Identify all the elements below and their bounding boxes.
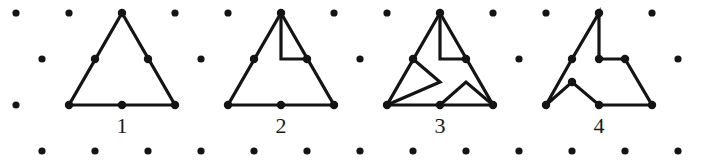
figure-4-pinwheel-label: 4 — [579, 115, 619, 137]
figure-1-plain-triangle-vertex-0 — [118, 9, 126, 17]
lattice-dot-r3-c4 — [250, 147, 257, 154]
figure-3-triangle-three-notches-vertex-3 — [462, 55, 470, 63]
lattice-dot-r1-c3 — [197, 55, 204, 62]
figure-1-plain-triangle-vertex-3 — [144, 55, 152, 63]
lattice-dot-r0-c12 — [648, 9, 655, 16]
lattice-dot-r3-c6 — [356, 147, 363, 154]
lattice-dot-r1-c0 — [38, 55, 45, 62]
lattice-dot-r3-c7 — [409, 147, 416, 154]
figure-1-plain-triangle-label: 1 — [102, 115, 142, 137]
lattice-dot-r3-c11 — [621, 147, 628, 154]
lattice-dot-r3-c9 — [515, 147, 522, 154]
lattice-dot-r3-c1 — [91, 147, 98, 154]
figure-2-triangle-one-notch-vertex-1 — [330, 101, 338, 109]
lattice-dot-r3-c2 — [144, 147, 151, 154]
figure-4-pinwheel-vertex-1 — [595, 55, 603, 63]
figure-2-triangle-one-notch-vertex-2 — [224, 101, 232, 109]
figure-3-triangle-three-notches-vertex-0 — [436, 9, 444, 17]
figure-4-pinwheel-vertex-4 — [595, 101, 603, 109]
lattice-dot-r0-c4 — [224, 9, 231, 16]
figure-2-triangle-one-notch-vertex-4 — [250, 55, 258, 63]
figure-4-pinwheel-vertex-7 — [568, 55, 576, 63]
lattice-dot-r3-c10 — [568, 147, 575, 154]
figure-1-plain-triangle-vertex-4 — [91, 55, 99, 63]
lattice-dot-r1-c9 — [515, 55, 522, 62]
figure-3-triangle-three-notches-vertex-5 — [436, 101, 444, 109]
figure-4-pinwheel-vertex-2 — [621, 55, 629, 63]
lattice-dot-r3-c5 — [303, 147, 310, 154]
lattice-dot-r0-c6 — [330, 9, 337, 16]
figure-4-pinwheel-vertex-0 — [595, 9, 603, 17]
figure-2-triangle-one-notch-vertex-5 — [277, 101, 285, 109]
figure-4-pinwheel-vertex-3 — [648, 101, 656, 109]
figure-4-pinwheel-vertex-5 — [568, 78, 576, 86]
figure-2-triangle-one-notch-label: 2 — [261, 115, 301, 137]
lattice-dot-r3-c12 — [674, 147, 681, 154]
figure-1-plain-triangle-vertex-1 — [171, 101, 179, 109]
figure-3-triangle-three-notches-notch-left — [387, 59, 440, 105]
figure-page: 1234 — [0, 0, 708, 165]
lattice-dot-r0-c3 — [171, 9, 178, 16]
figure-1-plain-triangle-vertex-5 — [118, 101, 126, 109]
figure-4-pinwheel-vertex-6 — [542, 101, 550, 109]
figure-3-triangle-three-notches-vertex-1 — [489, 101, 497, 109]
figure-2-triangle-one-notch-vertex-0 — [277, 9, 285, 17]
lattice-figure-canvas — [0, 0, 708, 165]
lattice-dot-r1-c12 — [674, 55, 681, 62]
figure-2-triangle-one-notch-vertex-3 — [303, 55, 311, 63]
lattice-dot-r3-c0 — [38, 147, 45, 154]
figure-3-triangle-three-notches-label: 3 — [420, 115, 460, 137]
figure-1-plain-triangle-outline — [69, 13, 175, 105]
lattice-dot-r3-c3 — [197, 147, 204, 154]
lattice-dot-r0-c0 — [12, 9, 19, 16]
figure-3-triangle-three-notches-vertex-4 — [409, 55, 417, 63]
figure-3-triangle-three-notches-vertex-2 — [383, 101, 391, 109]
figure-1-plain-triangle-vertex-2 — [65, 101, 73, 109]
lattice-dot-r2-c0 — [12, 101, 19, 108]
lattice-dot-r0-c7 — [383, 9, 390, 16]
lattice-dot-r3-c8 — [462, 147, 469, 154]
lattice-dot-r0-c1 — [65, 9, 72, 16]
lattice-dot-r1-c6 — [356, 55, 363, 62]
lattice-dot-r0-c9 — [489, 9, 496, 16]
lattice-dot-r0-c10 — [542, 9, 549, 16]
